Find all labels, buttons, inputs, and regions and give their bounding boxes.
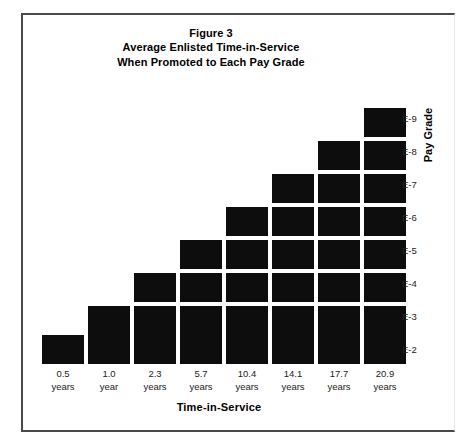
bar-block: [134, 273, 176, 302]
bar-block: [318, 240, 360, 269]
bar-block: [272, 207, 314, 236]
bar-block: [226, 207, 268, 236]
bar-block: [88, 335, 130, 364]
bar-block: [226, 240, 268, 269]
x-tick-unit: years: [270, 380, 316, 393]
bar-block: [272, 240, 314, 269]
chart-title-line-2: Average Enlisted Time-in-Service: [21, 40, 401, 54]
bar-block: [88, 306, 130, 335]
bar-block: [272, 335, 314, 364]
x-axis-tick-4: 10.4years: [224, 367, 270, 393]
x-tick-unit: years: [132, 380, 178, 393]
bar-block: [364, 240, 406, 269]
x-axis-tick-0: 0.5years: [40, 367, 86, 393]
y-axis-title: Pay Grade: [422, 75, 434, 195]
x-tick-unit: year: [86, 380, 132, 393]
x-tick-value: 1.0: [86, 367, 132, 380]
bar-block: [134, 306, 176, 335]
plot-area: [42, 66, 396, 364]
x-tick-value: 5.7: [178, 367, 224, 380]
y-axis-tick-e-2: E-2: [402, 344, 432, 356]
chart-title: Figure 3 Average Enlisted Time-in-Servic…: [21, 26, 401, 69]
x-axis-tick-5: 14.1years: [270, 367, 316, 393]
bar-block: [364, 335, 406, 364]
bar-column-e-4: [134, 269, 176, 364]
bar-block: [226, 306, 268, 335]
y-axis-tick-e-6: E-6: [402, 212, 432, 224]
x-tick-value: 14.1: [270, 367, 316, 380]
y-axis-tick-e-4: E-4: [402, 278, 432, 290]
bar-block: [364, 108, 406, 137]
bar-block: [318, 141, 360, 170]
bar-block: [272, 174, 314, 203]
x-tick-unit: years: [362, 380, 408, 393]
x-tick-value: 2.3: [132, 367, 178, 380]
x-tick-unit: years: [40, 380, 86, 393]
bar-block: [226, 273, 268, 302]
bar-block: [272, 273, 314, 302]
y-axis-tick-e-3: E-3: [402, 311, 432, 323]
bar-block: [180, 240, 222, 269]
bar-block: [318, 273, 360, 302]
bar-column-e-2: [42, 335, 84, 364]
x-axis-tick-2: 2.3years: [132, 367, 178, 393]
x-axis-tick-labels: 0.5years1.0year2.3years5.7years10.4years…: [42, 367, 396, 401]
bar-block: [272, 306, 314, 335]
bar-column-e-5: [180, 236, 222, 364]
bar-block: [318, 174, 360, 203]
y-axis-tick-e-5: E-5: [402, 245, 432, 257]
x-tick-unit: years: [316, 380, 362, 393]
bar-block: [364, 141, 406, 170]
bar-block: [226, 335, 268, 364]
x-axis-tick-3: 5.7years: [178, 367, 224, 393]
chart-title-line-1: Figure 3: [21, 26, 401, 40]
bar-column-e-9: [364, 104, 406, 364]
bar-column-e-8: [318, 137, 360, 364]
x-tick-value: 10.4: [224, 367, 270, 380]
x-axis-title: Time-in-Service: [42, 401, 396, 413]
bar-column-e-7: [272, 170, 314, 364]
x-tick-unit: years: [178, 380, 224, 393]
bar-block: [318, 306, 360, 335]
x-tick-value: 17.7: [316, 367, 362, 380]
bar-block: [180, 273, 222, 302]
x-tick-unit: years: [224, 380, 270, 393]
bar-block: [364, 306, 406, 335]
x-axis-tick-6: 17.7years: [316, 367, 362, 393]
bar-block: [180, 335, 222, 364]
bar-block: [134, 335, 176, 364]
bar-block: [364, 207, 406, 236]
bar-block: [180, 306, 222, 335]
bar-block: [318, 207, 360, 236]
bar-block: [42, 335, 84, 364]
x-tick-value: 20.9: [362, 367, 408, 380]
bar-column-e-6: [226, 203, 268, 364]
bar-block: [318, 335, 360, 364]
x-axis-tick-7: 20.9years: [362, 367, 408, 393]
bar-block: [364, 174, 406, 203]
x-tick-value: 0.5: [40, 367, 86, 380]
x-axis-tick-1: 1.0year: [86, 367, 132, 393]
bar-block: [364, 273, 406, 302]
bar-column-e-3: [88, 302, 130, 364]
